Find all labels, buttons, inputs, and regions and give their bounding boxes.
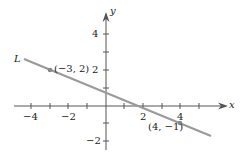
x-tick-label-neg4: −4 bbox=[23, 112, 38, 122]
x-tick-label-neg2: −2 bbox=[61, 112, 76, 122]
x-axis-label: x bbox=[229, 100, 235, 110]
point-neg3-2 bbox=[48, 68, 53, 73]
chart-figure: L (−3, 2) (4, −1) x y −4 −2 2 4 4 2 −2 bbox=[0, 0, 243, 158]
y-tick-label-2: 2 bbox=[92, 65, 98, 75]
point1-label: (−3, 2) bbox=[54, 64, 89, 74]
plot-area bbox=[0, 0, 243, 158]
x-tick-label-4: 4 bbox=[177, 112, 183, 122]
line-label-L: L bbox=[14, 54, 21, 64]
y-tick-label-4: 4 bbox=[92, 29, 98, 39]
y-axis-label: y bbox=[110, 6, 116, 16]
y-tick-label-neg2: −2 bbox=[86, 136, 101, 146]
point2-label: (4, −1) bbox=[148, 122, 183, 132]
x-tick-label-2: 2 bbox=[140, 112, 146, 122]
